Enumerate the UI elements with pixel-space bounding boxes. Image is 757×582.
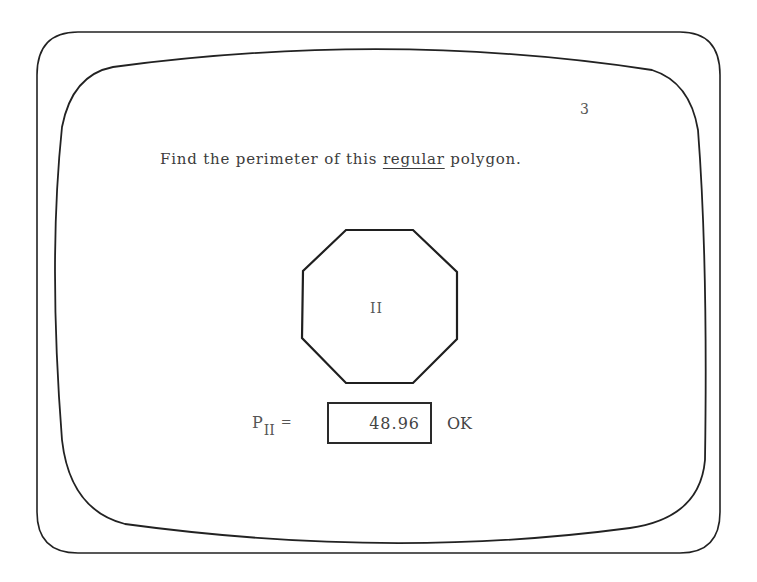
outer-bezel — [37, 32, 720, 553]
perimeter-label: PII= — [252, 413, 292, 438]
perimeter-subscript: II — [264, 422, 275, 438]
crt-screen-border — [55, 49, 706, 543]
equals-sign: = — [281, 414, 292, 429]
perimeter-variable: P — [252, 413, 263, 432]
polygon-label: II — [370, 300, 383, 316]
answer-value: 48.96 — [369, 414, 420, 433]
question-prefix: Find the perimeter of this — [160, 150, 377, 168]
question-emphasis: regular — [383, 150, 445, 168]
page-number: 3 — [580, 101, 589, 117]
monitor-frame — [0, 0, 757, 582]
question-text: Find the perimeter of this regular polyg… — [160, 150, 522, 168]
question-suffix: polygon. — [450, 150, 521, 168]
answer-input[interactable]: 48.96 — [327, 402, 432, 444]
feedback-text: OK — [447, 414, 472, 433]
